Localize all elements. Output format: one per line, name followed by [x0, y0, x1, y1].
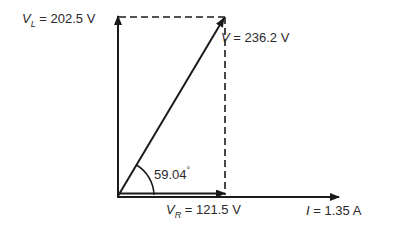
- vl-label: VL = 202.5 V: [22, 12, 95, 25]
- degree-symbol: °: [187, 165, 191, 175]
- v-label: V = 236.2 V: [221, 31, 289, 44]
- vr-equals: =: [181, 202, 196, 217]
- phasor-diagram-graphic: [0, 0, 398, 235]
- vr-subscript: R: [175, 210, 182, 220]
- i-label: I = 1.35 A: [306, 204, 361, 217]
- phasor-diagram: VL = 202.5 V V = 236.2 V 59.04° VR = 121…: [0, 0, 398, 235]
- vl-value: 202.5 V: [51, 11, 96, 26]
- angle-label: 59.04°: [154, 168, 190, 181]
- v-value: 236.2 V: [245, 30, 290, 45]
- i-equals: =: [310, 203, 325, 218]
- vl-subscript: L: [31, 19, 36, 29]
- angle-value: 59.04: [154, 167, 187, 182]
- angle-arc: [137, 165, 155, 195]
- vr-value: 121.5 V: [196, 202, 241, 217]
- vr-symbol: V: [166, 202, 175, 217]
- v-equals: =: [230, 30, 245, 45]
- v-symbol: V: [221, 30, 230, 45]
- i-value: 1.35 A: [324, 203, 361, 218]
- vl-equals: =: [36, 11, 51, 26]
- vr-label: VR = 121.5 V: [166, 203, 241, 216]
- vl-symbol: V: [22, 11, 31, 26]
